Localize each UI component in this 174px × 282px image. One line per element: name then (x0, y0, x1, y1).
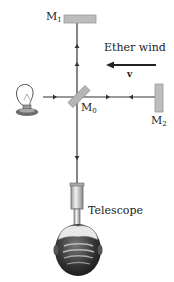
mirror-m2 (155, 84, 163, 112)
observer-head-icon (54, 224, 103, 276)
arrow-up-icon (75, 62, 80, 66)
arrow-down-icon (75, 156, 80, 160)
arrow-right-icon (53, 95, 57, 100)
mirror-m0-label: M0 (81, 102, 97, 115)
arrow-right-icon (106, 95, 110, 100)
ether-wind-label: Ether wind (104, 42, 166, 53)
arrow-up-icon (75, 44, 80, 48)
light-bulb-icon (16, 84, 38, 115)
horizontal-beam (43, 95, 156, 100)
mirror-m1 (64, 15, 96, 23)
mirror-m2-label: M2 (151, 115, 167, 128)
interferometer-diagram: M1 M0 M2 Ether wind v Telescope (0, 0, 174, 282)
ether-wind-arrow (106, 62, 156, 69)
arrow-left-icon (129, 95, 133, 100)
velocity-label: v (127, 70, 132, 79)
telescope (70, 183, 84, 229)
telescope-label: Telescope (88, 205, 143, 216)
mirror-m1-label: M1 (46, 11, 62, 24)
